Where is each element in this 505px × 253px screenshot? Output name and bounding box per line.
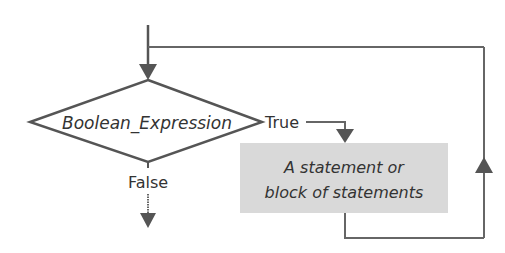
false-branch-label: False — [128, 173, 168, 192]
true-branch-label: True — [264, 113, 299, 132]
false-arrow-icon — [140, 213, 156, 228]
process-label-line1: A statement or — [283, 158, 405, 177]
process-exit-connector — [345, 213, 484, 238]
process-box — [240, 143, 448, 213]
true-arrow-icon — [336, 129, 354, 143]
entry-arrow-icon — [139, 64, 157, 80]
process-label-line2: block of statements — [265, 183, 424, 202]
decision-label: Boolean_Expression — [62, 113, 232, 134]
loop-up-arrow-icon — [475, 157, 493, 173]
while-loop-flowchart: Boolean_Expression True A statement or b… — [0, 0, 505, 253]
